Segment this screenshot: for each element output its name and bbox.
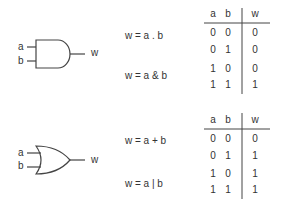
table-cell: 1 <box>250 151 260 161</box>
table-header-w: w <box>250 9 260 19</box>
and-input-a-label: a <box>18 42 24 52</box>
table-cell: 1 <box>250 169 260 179</box>
table-cell: 1 <box>208 64 218 74</box>
table-cell: 1 <box>223 45 233 55</box>
or-equation-pipe: w = a | b <box>125 179 163 189</box>
or-equation-plus: w = a + b <box>125 136 166 146</box>
table-cell: 1 <box>223 151 233 161</box>
table-cell: 1 <box>223 185 233 195</box>
table-cell: 1 <box>250 185 260 195</box>
and-output-label: w <box>91 48 98 58</box>
table-header-a: a <box>208 115 218 125</box>
table-header-a: a <box>208 9 218 19</box>
table-cell: 1 <box>208 185 218 195</box>
or-gate-icon <box>27 146 85 174</box>
and-input-b-label: b <box>18 56 24 66</box>
table-cell: 1 <box>208 80 218 90</box>
table-cell: 0 <box>250 45 260 55</box>
table-cell: 0 <box>250 64 260 74</box>
or-input-a-label: a <box>18 148 24 158</box>
or-output-label: w <box>91 155 98 165</box>
and-gate-icon <box>27 40 85 68</box>
table-cell: 0 <box>223 169 233 179</box>
table-cell: 0 <box>250 28 260 38</box>
and-equation-ampersand: w = a & b <box>125 71 167 81</box>
table-cell: 1 <box>250 80 260 90</box>
table-header-b: b <box>223 115 233 125</box>
table-cell: 0 <box>208 151 218 161</box>
table-cell: 0 <box>208 45 218 55</box>
table-cell: 0 <box>223 134 233 144</box>
table-header-w: w <box>250 115 260 125</box>
table-cell: 0 <box>223 64 233 74</box>
table-cell: 0 <box>208 134 218 144</box>
and-equation-dot: w = a . b <box>125 31 163 41</box>
table-header-b: b <box>223 9 233 19</box>
table-cell: 1 <box>223 80 233 90</box>
table-cell: 1 <box>208 169 218 179</box>
table-cell: 0 <box>223 28 233 38</box>
table-cell: 0 <box>208 28 218 38</box>
table-cell: 0 <box>250 134 260 144</box>
or-input-b-label: b <box>18 161 24 171</box>
